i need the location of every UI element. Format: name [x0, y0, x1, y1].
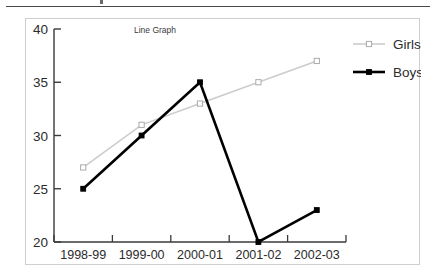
- y-tick-label: 40: [33, 22, 48, 37]
- line-chart: 2025303540 1998-991999-002000-012001-022…: [26, 19, 421, 266]
- data-point-boys-1: [139, 133, 144, 138]
- data-point-boys-2: [198, 80, 203, 85]
- y-axis-tick-labels: 2025303540: [33, 22, 48, 250]
- x-tick-label: 2000-01: [177, 248, 223, 262]
- chart-svg: 2025303540 1998-991999-002000-012001-022…: [26, 19, 421, 266]
- chart-legend: GirlsBoys: [353, 37, 421, 80]
- data-point-girls-2: [197, 101, 202, 106]
- legend-label-boys: Boys: [393, 65, 421, 80]
- y-tick-label: 25: [33, 182, 48, 197]
- y-tick-label: 35: [33, 75, 48, 90]
- x-tick-label: 2002-03: [294, 248, 340, 262]
- top-horizontal-rule: [6, 6, 430, 7]
- figure-border-box: 2025303540 1998-991999-002000-012001-022…: [25, 18, 420, 265]
- x-axis-tick-labels: 1998-991999-002000-012001-022002-03: [60, 248, 340, 262]
- data-point-boys-4: [314, 208, 319, 213]
- axes-group: [54, 29, 346, 242]
- x-tick-label: 1998-99: [60, 248, 106, 262]
- legend-swatch-marker-boys: [367, 70, 372, 75]
- legend-label-girls: Girls: [393, 37, 421, 52]
- data-point-boys-0: [81, 186, 86, 191]
- y-axis-ticks: [54, 29, 61, 242]
- x-tick-label: 1999-00: [119, 248, 165, 262]
- clipped-text-fragment: [100, 0, 103, 4]
- data-point-girls-0: [81, 165, 86, 170]
- data-point-girls-4: [314, 58, 319, 63]
- data-point-boys-3: [256, 240, 261, 245]
- series-line-girls: [83, 61, 317, 168]
- chart-title: Line Graph: [134, 25, 176, 35]
- y-tick-label: 30: [33, 129, 48, 144]
- legend-swatch-marker-girls: [366, 41, 371, 46]
- x-axis-ticks: [54, 235, 346, 242]
- series-girls: [81, 58, 320, 170]
- data-point-girls-1: [139, 122, 144, 127]
- x-tick-label: 2001-02: [235, 248, 281, 262]
- data-point-girls-3: [256, 80, 261, 85]
- y-tick-label: 20: [33, 235, 48, 250]
